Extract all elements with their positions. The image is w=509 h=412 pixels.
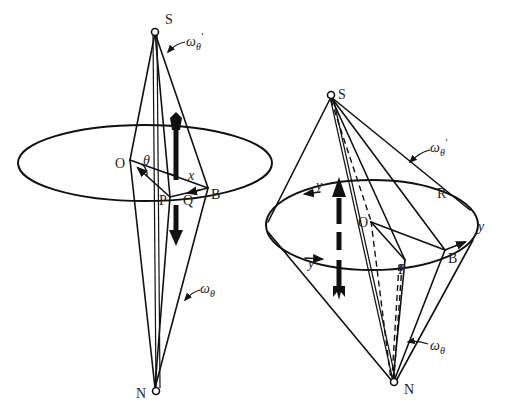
left-label-q: Q [183,193,193,208]
right-label-y-right: y [476,219,485,234]
left-label-omega-bottom: ωθ [200,281,215,299]
left-pole-n [153,388,160,395]
left-spindle-lines [130,33,208,388]
right-label-y-top: y [314,178,323,193]
right-label-n: N [404,382,414,397]
left-pole-s [152,29,159,36]
left-label-theta: θ [143,153,150,168]
right-label-s: S [338,87,346,102]
right-omega-bottom-pointer [408,341,428,344]
left-omega-bottom-pointer [185,290,200,300]
arrow-tail-icon [333,286,345,300]
left-label-x: x [187,168,195,183]
left-label-n: N [136,386,146,401]
left-label-b: B [211,187,220,202]
right-label-p: P [398,262,406,277]
left-omega-top-pointer [168,42,185,52]
left-label-s: S [165,12,173,27]
right-dashed-lines [331,100,402,380]
right-flow-arrow [332,177,346,300]
right-label-r: R [437,186,447,201]
arrow-down-icon [169,230,183,246]
left-label-o: O [115,156,125,171]
right-label-o: O [358,215,368,230]
left-label-omega-top: ωθ′ [186,30,204,52]
right-pole-n [391,379,398,386]
right-cone-lines [268,97,473,381]
right-diagram: S N O P B R y y y ωθ′ ωθ [266,87,485,397]
left-diagram: S N O θ x P Q B ωθ′ ωθ [18,12,272,401]
right-label-omega-top: ωθ′ [430,136,448,158]
right-label-omega-bottom: ωθ [430,338,445,356]
right-label-y-bottom: y [306,256,315,271]
arrow-tail-icon [170,112,182,130]
arrow-up-icon [332,177,346,197]
left-label-p: P [159,193,167,208]
right-omega-top-pointer [410,150,430,162]
right-label-b: B [448,251,457,266]
right-pole-s [328,92,335,99]
right-geometry [305,192,465,260]
diagram-canvas: S N O θ x P Q B ωθ′ ωθ [0,0,509,412]
